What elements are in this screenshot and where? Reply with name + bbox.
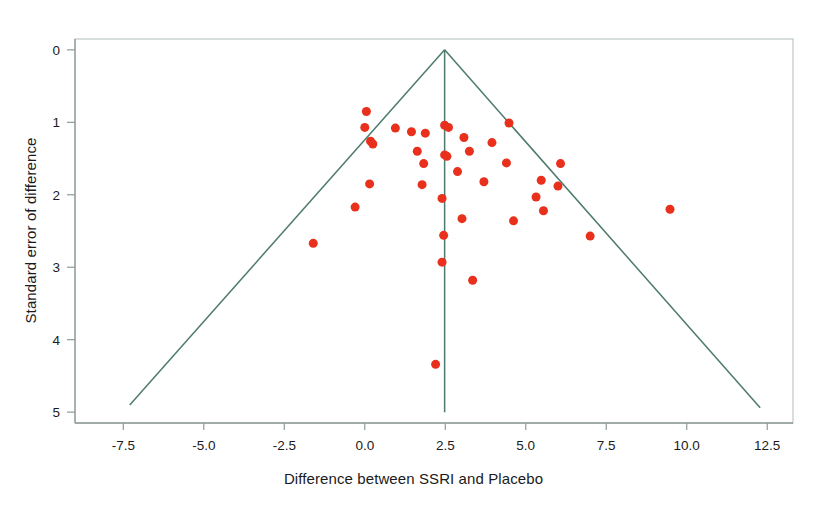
scatter-point [459,133,468,142]
funnel-plot-figure: -7.5-5.0-2.50.02.55.07.510.012.5 012345 … [0,0,827,511]
x-tick-label: 7.5 [597,438,616,453]
funnel-right-bound [445,50,761,408]
scatter-point [351,203,360,212]
scatter-point [479,177,488,186]
funnel-left-bound [130,50,445,405]
scatter-point [458,214,467,223]
scatter-point [666,205,675,214]
scatter-point [438,194,447,203]
x-tick-label: -2.5 [273,438,296,453]
scatter-point [407,127,416,136]
scatter-point [509,216,518,225]
x-tick-label: 10.0 [674,438,700,453]
y-axis-ticks: 012345 [52,43,75,420]
x-tick-label: -7.5 [112,438,135,453]
x-tick-label: 2.5 [436,438,455,453]
scatter-point [539,206,548,215]
scatter-point [453,167,462,176]
scatter-point [360,123,369,132]
scatter-point [438,258,447,267]
scatter-point [556,159,565,168]
y-tick-label: 2 [52,188,60,203]
scatter-point [439,231,448,240]
x-tick-label: 5.0 [516,438,535,453]
y-tick-label: 1 [52,115,60,130]
scatter-point [418,180,427,189]
scatter-point [368,140,377,149]
x-tick-label: -5.0 [192,438,215,453]
scatter-point [391,124,400,133]
y-axis-title: Standard error of difference [22,91,39,371]
scatter-point [413,147,422,156]
x-tick-label: 0.0 [355,438,374,453]
x-axis-title: Difference between SSRI and Placebo [0,470,827,487]
x-tick-label: 12.5 [754,438,780,453]
funnel-reference-lines [130,50,760,412]
scatter-point [502,158,511,167]
x-axis-ticks: -7.5-5.0-2.50.02.55.07.510.012.5 [112,423,781,453]
y-tick-label: 0 [52,43,60,58]
scatter-point [537,176,546,185]
scatter-point [487,138,496,147]
scatter-point [365,179,374,188]
scatter-point [442,152,451,161]
scatter-point [465,147,474,156]
scatter-point [419,159,428,168]
y-tick-label: 5 [52,405,60,420]
y-tick-label: 3 [52,260,60,275]
scatter-point [586,232,595,241]
plot-canvas: -7.5-5.0-2.50.02.55.07.510.012.5 012345 [0,0,827,511]
scatter-points [309,107,675,369]
scatter-point [468,276,477,285]
scatter-point [444,123,453,132]
scatter-point [362,107,371,116]
y-tick-label: 4 [52,333,60,348]
scatter-point [553,182,562,191]
scatter-point [505,119,514,128]
scatter-point [421,129,430,138]
scatter-point [431,360,440,369]
scatter-point [309,239,318,248]
scatter-point [532,192,541,201]
